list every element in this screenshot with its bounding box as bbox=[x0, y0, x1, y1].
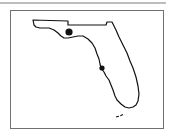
florida-keys bbox=[116, 114, 124, 117]
florida-map bbox=[0, 0, 179, 140]
florida-outline bbox=[33, 20, 139, 108]
marker-west-coast bbox=[99, 65, 104, 70]
marker-north bbox=[65, 28, 72, 35]
